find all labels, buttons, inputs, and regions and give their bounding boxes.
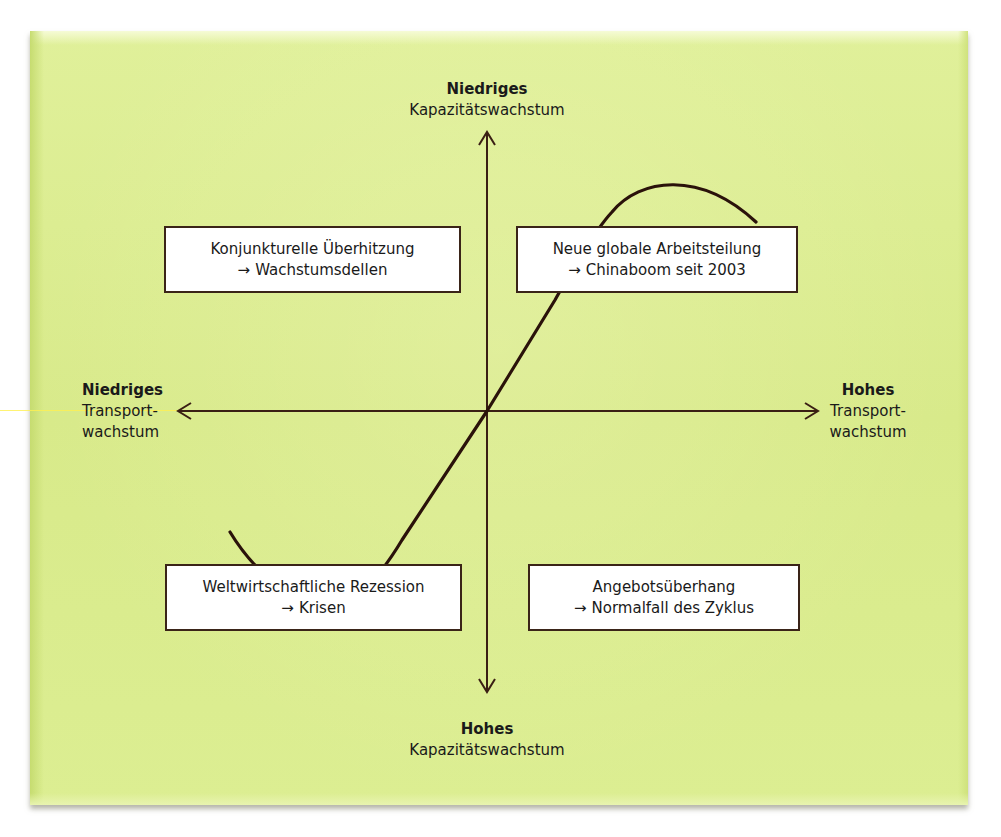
right-arrow-icon: →: [568, 261, 581, 279]
quadrant-top-left-result-text: Wachstumsdellen: [255, 261, 387, 279]
axis-label-left: Niedriges Transport- wachstum: [82, 380, 163, 443]
quadrant-bottom-right-title: Angebotsüberhang: [593, 577, 736, 598]
axis-label-bottom-text: Kapazitätswachstum: [367, 740, 607, 761]
right-arrow-icon: →: [238, 261, 251, 279]
quadrant-top-left-title: Konjunkturelle Überhitzung: [210, 239, 414, 260]
quadrant-top-right-result: →Chinaboom seit 2003: [568, 260, 746, 281]
right-arrow-icon: →: [281, 599, 294, 617]
axis-label-top: Niedriges Kapazitätswachstum: [367, 79, 607, 121]
quadrant-box-top-right: Neue globale Arbeitsteilung →Chinaboom s…: [516, 226, 798, 293]
axis-label-bottom: Hohes Kapazitätswachstum: [367, 719, 607, 761]
axis-label-top-text: Kapazitätswachstum: [367, 100, 607, 121]
quadrant-bottom-left-result: →Krisen: [281, 598, 345, 619]
axis-label-left-line1: Transport-: [82, 401, 163, 422]
axis-label-left-line2: wachstum: [82, 422, 163, 443]
axis-label-right: Hohes Transport- wachstum: [813, 380, 923, 443]
axis-label-right-bold: Hohes: [813, 380, 923, 401]
axis-label-right-line2: wachstum: [813, 422, 923, 443]
quadrant-bottom-right-result-text: Normalfall des Zyklus: [592, 599, 755, 617]
quadrant-box-bottom-right: Angebotsüberhang →Normalfall des Zyklus: [528, 564, 800, 631]
axis-label-left-bold: Niedriges: [82, 380, 163, 401]
axis-label-bottom-bold: Hohes: [367, 719, 607, 740]
right-arrow-icon: →: [574, 599, 587, 617]
quadrant-box-top-left: Konjunkturelle Überhitzung →Wachstumsdel…: [164, 226, 461, 293]
quadrant-top-right-result-text: Chinaboom seit 2003: [586, 261, 746, 279]
quadrant-bottom-right-result: →Normalfall des Zyklus: [574, 598, 754, 619]
quadrant-top-right-title: Neue globale Arbeitsteilung: [553, 239, 762, 260]
axis-label-right-line1: Transport-: [813, 401, 923, 422]
quadrant-bottom-left-result-text: Krisen: [299, 599, 346, 617]
axis-label-top-bold: Niedriges: [367, 79, 607, 100]
quadrant-box-bottom-left: Weltwirtschaftliche Rezession →Krisen: [165, 564, 462, 631]
quadrant-bottom-left-title: Weltwirtschaftliche Rezession: [202, 577, 424, 598]
quadrant-top-left-result: →Wachstumsdellen: [238, 260, 388, 281]
